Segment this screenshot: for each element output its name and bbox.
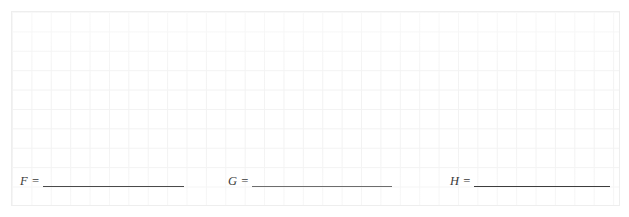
answer-field-row: F = G = H = [0, 160, 629, 200]
answer-blank-h[interactable] [474, 186, 610, 187]
answer-label-h: H = [450, 175, 471, 191]
answer-field-g[interactable]: G = [228, 160, 392, 190]
answer-field-f[interactable]: F = [20, 160, 184, 190]
answer-field-h[interactable]: H = [450, 160, 610, 190]
answer-blank-g[interactable] [252, 186, 392, 187]
answer-label-f: F = [20, 175, 40, 191]
answer-label-g: G = [228, 175, 249, 191]
answer-blank-f[interactable] [43, 186, 184, 187]
worksheet-answer-area: F = G = H = [0, 0, 629, 217]
